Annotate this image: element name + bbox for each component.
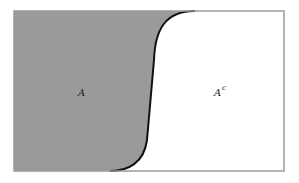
label-a: A [77,87,85,98]
venn-diagram: A A c [0,0,299,183]
label-a-complement-superscript: c [222,84,226,92]
label-a-complement: A [213,87,221,98]
